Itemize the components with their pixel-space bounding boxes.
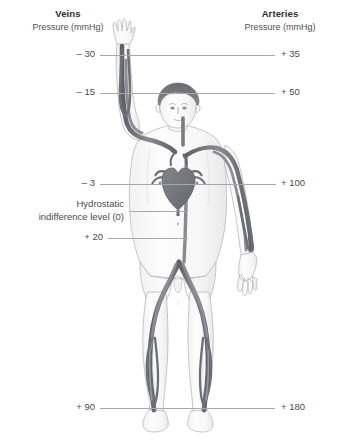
vein-value-3: – 3 xyxy=(35,177,95,188)
hydrostatic-indifference-label: Hydrostatic indifference level (0) xyxy=(8,198,124,223)
veins-column-header: Veins Pressure (mmHg) xyxy=(8,7,128,34)
vein-value-2: – 15 xyxy=(35,86,95,97)
artery-value-2: + 50 xyxy=(281,86,341,97)
hydrostatic-label-line-2: indifference level (0) xyxy=(39,211,124,222)
artery-value-3: + 100 xyxy=(281,177,341,188)
vein-value-1: – 30 xyxy=(35,48,95,59)
arteries-column-header: Arteries Pressure (mmHg) xyxy=(220,7,340,34)
leader-line-artery-2 xyxy=(196,93,275,94)
arteries-subtitle: Pressure (mmHg) xyxy=(220,21,340,34)
arteries-title: Arteries xyxy=(220,7,340,21)
leader-line-artery-1 xyxy=(196,55,275,56)
leader-line-vein-5 xyxy=(100,408,275,409)
leader-line-vein-4 xyxy=(108,238,188,239)
leader-line-hydrostatic xyxy=(130,211,188,212)
hydrostatic-pressure-diagram: – 30 + 35 – 15 + 50 – 3 + 100 Hydrostati… xyxy=(0,0,346,441)
vein-value-4: + 20 xyxy=(43,231,103,242)
veins-title: Veins xyxy=(8,7,128,21)
artery-value-1: + 35 xyxy=(281,48,341,59)
vein-value-5: + 90 xyxy=(35,401,95,412)
veins-subtitle: Pressure (mmHg) xyxy=(8,21,128,34)
hydrostatic-label-line-1: Hydrostatic xyxy=(76,198,124,209)
artery-value-5: + 180 xyxy=(281,401,341,412)
leader-line-vein-3 xyxy=(100,184,276,185)
